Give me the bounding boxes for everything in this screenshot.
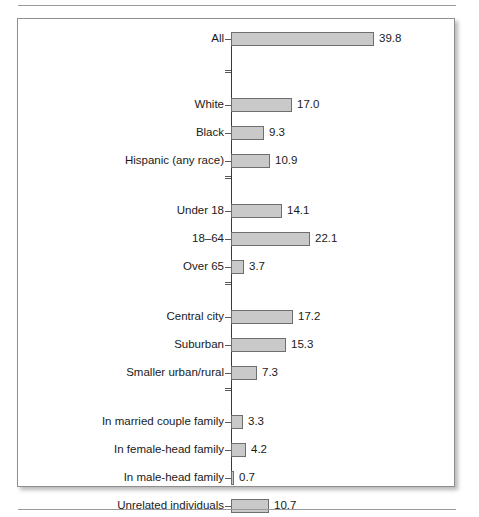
axis-group-tick: [225, 178, 231, 179]
bar-category-label: In male-head family: [124, 472, 224, 484]
bar-value-label: 4.2: [251, 444, 267, 456]
bar-category-label: Over 65: [183, 261, 224, 273]
bar-rect[interactable]: [231, 338, 286, 352]
bar-value-label: 10.9: [275, 155, 297, 167]
bar-value-label: 9.3: [269, 127, 285, 139]
axis-tick: [225, 105, 231, 106]
bar-category-label: Suburban: [174, 339, 224, 351]
top-divider-rule: [18, 5, 456, 6]
bar-category-label: Black: [196, 127, 224, 139]
bar-chart-plot-area: All39.8White17.0Black9.3Hispanic (any ra…: [18, 19, 454, 486]
bar-category-label: Under 18: [177, 205, 224, 217]
figure-frame: All39.8White17.0Black9.3Hispanic (any ra…: [17, 18, 455, 487]
bar-rect[interactable]: [231, 232, 310, 246]
axis-group-tick: [225, 176, 231, 177]
bar-value-label: 7.3: [262, 367, 278, 379]
bar-rect[interactable]: [231, 499, 269, 513]
bottom-divider-rule: [18, 509, 456, 510]
axis-group-tick: [225, 282, 231, 283]
axis-tick: [225, 450, 231, 451]
axis-tick: [225, 239, 231, 240]
bar-category-label: In married couple family: [102, 416, 224, 428]
bar-category-label: White: [195, 99, 224, 111]
axis-tick: [225, 478, 231, 479]
axis-tick: [225, 211, 231, 212]
bar-rect[interactable]: [231, 415, 243, 429]
bar-value-label: 14.1: [287, 205, 309, 217]
bar-rect[interactable]: [231, 260, 244, 274]
figure-page: All39.8White17.0Black9.3Hispanic (any ra…: [0, 0, 479, 517]
bar-category-label: Unrelated individuals: [117, 500, 224, 512]
bar-value-label: 17.0: [297, 99, 319, 111]
bar-rect[interactable]: [231, 154, 270, 168]
bar-value-label: 3.7: [249, 261, 265, 273]
axis-tick: [225, 506, 231, 507]
axis-tick: [225, 267, 231, 268]
bar-category-label: All: [211, 33, 224, 45]
axis-group-tick: [225, 72, 231, 73]
bar-rect[interactable]: [231, 98, 292, 112]
bar-value-label: 10.7: [274, 500, 296, 512]
bar-value-label: 15.3: [291, 339, 313, 351]
bar-value-label: 17.2: [298, 311, 320, 323]
bar-category-label: Central city: [166, 311, 224, 323]
axis-tick: [225, 422, 231, 423]
axis-tick: [225, 133, 231, 134]
axis-tick: [225, 161, 231, 162]
axis-tick: [225, 345, 231, 346]
bar-rect[interactable]: [231, 204, 282, 218]
bar-category-label: Hispanic (any race): [125, 155, 224, 167]
axis-tick: [225, 317, 231, 318]
bar-rect[interactable]: [231, 366, 257, 380]
bar-value-label: 22.1: [315, 233, 337, 245]
bar-category-label: 18–64: [192, 233, 224, 245]
bar-rect[interactable]: [231, 32, 374, 46]
axis-group-tick: [225, 388, 231, 389]
bar-rect[interactable]: [231, 471, 234, 485]
axis-tick: [225, 373, 231, 374]
bar-value-label: 39.8: [379, 33, 401, 45]
axis-group-tick: [225, 70, 231, 71]
bar-rect[interactable]: [231, 443, 246, 457]
bar-value-label: 0.7: [239, 472, 255, 484]
bar-category-label: Smaller urban/rural: [126, 367, 224, 379]
bar-value-label: 3.3: [248, 416, 264, 428]
axis-tick: [225, 39, 231, 40]
axis-group-tick: [225, 284, 231, 285]
bar-rect[interactable]: [231, 126, 264, 140]
bar-rect[interactable]: [231, 310, 293, 324]
axis-group-tick: [225, 390, 231, 391]
bar-category-label: In female-head family: [114, 444, 224, 456]
